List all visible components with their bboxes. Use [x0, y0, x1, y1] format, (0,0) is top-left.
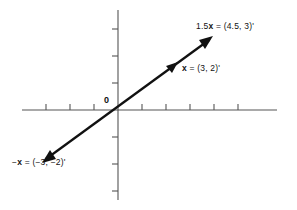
label-scaled-vector: 1.5x = (4.5, 3)' [196, 22, 254, 31]
vector-diagram: 0 1.5x = (4.5, 3)' x = (3, 2)' −x = (−3,… [0, 0, 297, 210]
label-negative-vector: −x = (−3, −2)' [12, 158, 66, 167]
origin-label: 0 [104, 96, 109, 105]
label-vector-value: = (3, 2)' [187, 63, 220, 73]
coordinate-plot [0, 0, 297, 210]
label-scaled-vector-coefficient: 1.5 [196, 21, 208, 31]
x-axis-ticks [46, 104, 238, 110]
label-vector: x = (3, 2)' [182, 64, 220, 73]
label-negative-vector-value: = (−3, −2)' [22, 157, 65, 167]
vector-line [46, 40, 209, 159]
label-scaled-vector-value: = (4.5, 3)' [213, 21, 254, 31]
